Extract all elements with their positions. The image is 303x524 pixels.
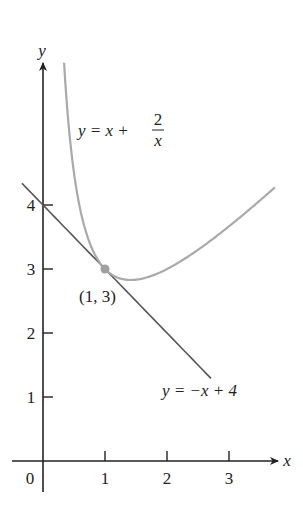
curve-series-x-plus-2-over-x [64,63,275,280]
chart: 0 1 2 3 1 2 3 4 x y y = x + 2 x (1, 3) y… [0,0,303,524]
y-tick-label-3: 3 [27,260,36,279]
point-label: (1, 3) [79,287,116,306]
x-tick-label-3: 3 [225,469,234,488]
x-axis-label: x [282,451,291,470]
line-equation-label: y = −x + 4 [160,381,238,400]
y-tick-label-2: 2 [27,324,36,343]
y-axis-label: y [36,41,46,60]
y-ticks [43,205,53,397]
curve-equation-denominator: x [153,131,162,150]
y-tick-label-4: 4 [27,196,36,215]
x-tick-label-1: 1 [101,469,110,488]
x-ticks [105,451,229,461]
tangent-point-marker [101,265,110,274]
x-tick-label-2: 2 [163,469,172,488]
x-tick-label-0: 0 [26,469,35,488]
line-series-neg-x-plus-4 [22,183,211,378]
curve-equation-label: y = x + [76,121,129,140]
y-tick-label-1: 1 [27,388,36,407]
curve-equation-numerator: 2 [154,110,163,129]
